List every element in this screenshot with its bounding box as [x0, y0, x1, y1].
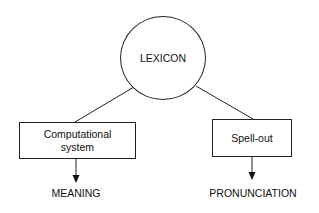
- computational-system-label-line2: system: [61, 141, 94, 154]
- computational-system-node: Computational system: [19, 122, 136, 159]
- computational-system-label-line1: Computational: [44, 128, 112, 141]
- edge-lexicon-to-spellout: [196, 86, 253, 119]
- lexicon-node: LEXICON: [120, 16, 206, 100]
- spell-out-label: Spell-out: [231, 132, 272, 145]
- arrowhead-meaning: [73, 175, 80, 183]
- pronunciation-output-label: PRONUNCIATION: [200, 187, 306, 199]
- spell-out-node: Spell-out: [212, 119, 292, 157]
- meaning-output-label: MEANING: [36, 187, 116, 199]
- arrowhead-pronunciation: [249, 172, 256, 180]
- edge-lexicon-to-computational: [75, 87, 134, 122]
- lexicon-label: LEXICON: [140, 52, 186, 64]
